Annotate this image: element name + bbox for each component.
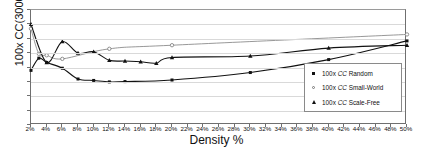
data-point-circle <box>170 44 173 47</box>
square-marker-icon-shape <box>312 72 315 75</box>
gridline <box>31 53 405 54</box>
series-2 <box>29 27 408 61</box>
x-tick-mark <box>234 124 235 127</box>
legend-item-2[interactable]: 100x CC Small-World <box>309 82 397 94</box>
x-tick-mark <box>46 124 47 127</box>
x-tick-mark <box>202 124 203 127</box>
data-point-square <box>37 57 40 60</box>
data-point-circle <box>108 47 111 50</box>
x-tick-mark <box>281 124 282 127</box>
x-tick-mark <box>30 124 31 127</box>
circle-marker-icon-shape <box>312 86 315 89</box>
chart-title <box>0 0 433 2</box>
chart-legend: 100x CC Random100x CC Small-World100x CC… <box>304 63 402 112</box>
x-tick-mark <box>249 124 250 127</box>
triangle-marker-icon-shape <box>312 100 316 104</box>
x-tick-mark <box>187 124 188 127</box>
x-tick-mark <box>140 124 141 127</box>
circle-marker-icon <box>309 86 318 89</box>
data-point-square <box>406 39 409 42</box>
x-tick-mark <box>171 124 172 127</box>
series-line <box>31 24 407 63</box>
x-tick-mark <box>359 124 360 127</box>
square-marker-icon <box>309 72 318 75</box>
data-point-circle <box>61 57 64 60</box>
chart-container: 100x CC(3000) 01020304050607080 2%4%6%8%… <box>0 0 433 148</box>
data-point-square <box>77 78 80 81</box>
x-tick-mark <box>265 124 266 127</box>
legend-label: 100x CC Scale-Free <box>322 99 380 106</box>
legend-label: 100x CC Random <box>322 70 373 77</box>
x-tick-mark <box>312 124 313 127</box>
x-tick-mark <box>108 124 109 127</box>
legend-item-3[interactable]: 100x CC Scale-Free <box>309 96 397 108</box>
x-tick-mark <box>390 124 391 127</box>
gridline <box>31 39 405 40</box>
legend-item-1[interactable]: 100x CC Random <box>309 67 397 79</box>
x-tick-mark <box>61 124 62 127</box>
legend-label: 100x CC Small-World <box>322 84 383 91</box>
x-tick-mark <box>375 124 376 127</box>
data-point-square <box>249 71 252 74</box>
x-tick-mark <box>124 124 125 127</box>
triangle-marker-icon <box>309 100 318 104</box>
x-tick-mark <box>77 124 78 127</box>
x-tick-mark <box>343 124 344 127</box>
gridline <box>31 24 405 25</box>
x-tick-mark <box>406 124 407 127</box>
y-axis-ticks: 01020304050607080 <box>0 0 30 133</box>
x-tick-mark <box>296 124 297 127</box>
data-point-square <box>30 69 33 72</box>
x-tick-mark <box>218 124 219 127</box>
x-axis-title: Density % <box>0 133 433 147</box>
x-tick-mark <box>328 124 329 127</box>
x-tick-mark <box>155 124 156 127</box>
data-point-circle <box>405 33 408 36</box>
x-tick-mark <box>93 124 94 127</box>
data-point-square <box>327 58 330 61</box>
